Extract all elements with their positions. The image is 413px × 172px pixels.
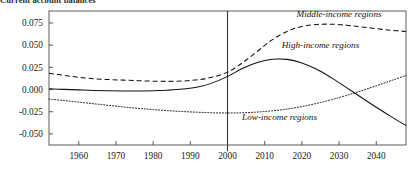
y-axis-tick-label: -0.050: [19, 129, 43, 139]
series-annotation-0: Middle-income regions: [295, 9, 382, 19]
y-axis-tick-label: 0.000: [22, 85, 43, 95]
series-annotation-2: Low-income regions: [241, 112, 317, 122]
chart-figure: Current account balances 0.0750.0500.025…: [0, 0, 413, 172]
x-axis-tick-label: 2020: [293, 151, 312, 161]
y-axis-tick-label: 0.075: [22, 18, 43, 28]
x-axis-tick-label: 2010: [255, 151, 274, 161]
x-axis-tick-label: 2000: [218, 151, 237, 161]
x-axis-tick-label: 2030: [330, 151, 349, 161]
x-axis-tick-label: 1990: [181, 151, 200, 161]
x-axis-tick-label: 1970: [107, 151, 126, 161]
line-chart-plot: 0.0750.0500.0250.000-0.025-0.05019601970…: [0, 0, 413, 172]
x-axis-tick-label: 1960: [69, 151, 88, 161]
y-axis-tick-label: 0.025: [22, 63, 43, 73]
series-annotation-1: High-income regions: [281, 40, 360, 50]
x-axis-tick-label: 2040: [367, 151, 386, 161]
y-axis-tick-label: 0.050: [22, 40, 43, 50]
x-axis-tick-label: 1980: [144, 151, 163, 161]
y-axis-tick-label: -0.025: [19, 107, 43, 117]
